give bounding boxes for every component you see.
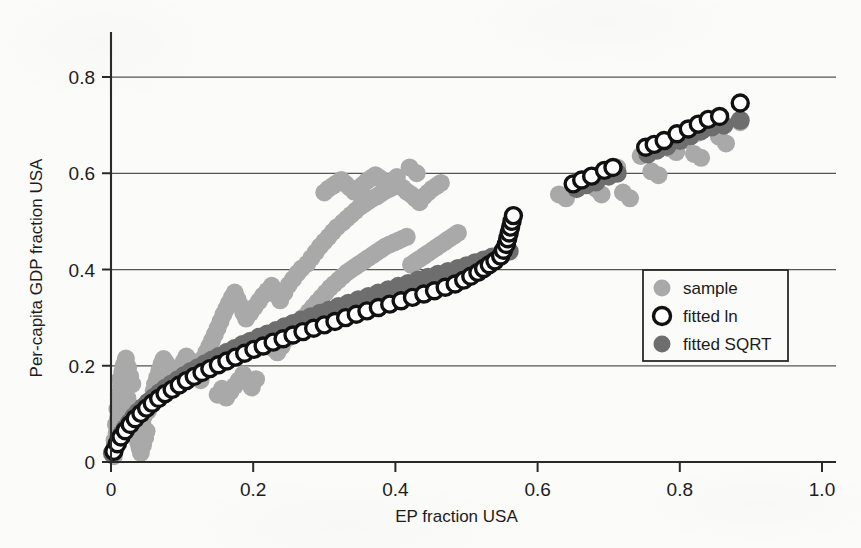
data-point	[398, 228, 416, 246]
data-point	[732, 95, 748, 111]
legend: samplefitted lnfitted SQRT	[643, 270, 788, 361]
x-axis-title: EP fraction USA	[395, 507, 518, 526]
data-point	[388, 168, 406, 186]
data-point	[432, 174, 450, 192]
data-point	[247, 370, 265, 388]
data-point	[605, 159, 621, 175]
x-tick-label-0.4: 0.4	[382, 479, 409, 500]
legend-label: fitted ln	[683, 307, 738, 326]
y-tick-label-0.8: 0.8	[69, 67, 95, 88]
data-point	[408, 164, 426, 182]
legend-marker-icon	[654, 308, 671, 325]
legend-marker-icon	[654, 336, 671, 353]
data-point	[731, 111, 750, 130]
data-point	[649, 166, 667, 184]
y-tick-label-0: 0	[84, 452, 95, 473]
data-point	[449, 224, 467, 242]
x-tick-label-0: 0	[106, 479, 117, 500]
data-point	[712, 108, 728, 124]
axes-group	[102, 32, 836, 472]
data-point	[692, 149, 710, 167]
x-tick-label-0.2: 0.2	[240, 479, 266, 500]
y-tick-label-0.6: 0.6	[69, 163, 95, 184]
data-points-group	[103, 95, 750, 465]
data-point	[621, 189, 639, 207]
figure-page: 00.20.40.60.800.20.40.60.81.0 EP fractio…	[0, 0, 861, 548]
x-tick-label-0.6: 0.6	[524, 479, 550, 500]
x-tick-label-1.0: 1.0	[809, 479, 835, 500]
x-tick-label-0.8: 0.8	[667, 479, 693, 500]
scatter-chart: 00.20.40.60.800.20.40.60.81.0 EP fractio…	[0, 0, 861, 548]
legend-item-sample[interactable]: sample	[654, 279, 738, 298]
y-axis-title: Per-capita GDP fraction USA	[27, 158, 46, 378]
data-point	[505, 208, 521, 224]
legend-item-fitted-ln[interactable]: fitted ln	[654, 307, 738, 326]
y-tick-label-0.4: 0.4	[69, 260, 96, 281]
legend-item-fitted-sqrt[interactable]: fitted SQRT	[654, 335, 772, 354]
legend-marker-icon	[654, 280, 671, 297]
legend-label: sample	[683, 279, 738, 298]
data-point	[717, 134, 735, 152]
legend-label: fitted SQRT	[683, 335, 772, 354]
y-tick-label-0.2: 0.2	[69, 356, 95, 377]
